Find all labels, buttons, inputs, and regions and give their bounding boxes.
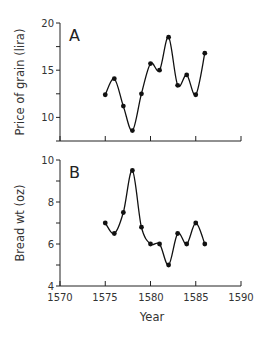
panel-b-xtick-label: 1570 bbox=[47, 292, 72, 303]
panel-b-ytick-label: 6 bbox=[48, 239, 54, 250]
panel-a-y-ticks bbox=[56, 23, 60, 117]
data-point bbox=[157, 242, 162, 247]
panel-b-xtick-label: 1590 bbox=[228, 292, 253, 303]
data-point bbox=[175, 231, 180, 236]
data-point bbox=[103, 221, 108, 226]
data-point bbox=[103, 92, 108, 97]
data-point bbox=[112, 76, 117, 81]
figure: 20 15 10 A Price of grain (lira) 10 8 6 … bbox=[0, 0, 265, 337]
panel-b-xtick-label: 1575 bbox=[92, 292, 117, 303]
panel-b-points bbox=[103, 168, 207, 267]
panel-b-ytick-label: 4 bbox=[48, 281, 54, 292]
data-point bbox=[121, 210, 126, 215]
data-point bbox=[121, 104, 126, 109]
data-point bbox=[202, 51, 207, 56]
panel-a-label: A bbox=[69, 26, 80, 45]
panel-b: 10 8 6 4 1570 1575 1580 1585 1590 Year B… bbox=[13, 155, 254, 324]
data-point bbox=[130, 168, 135, 173]
panel-b-y-ticks bbox=[56, 160, 60, 265]
panel-a-ytick-label: 20 bbox=[41, 18, 54, 29]
panel-b-ytick-label: 8 bbox=[48, 197, 54, 208]
panel-b-x-ticks bbox=[60, 281, 241, 286]
panel-b-line bbox=[105, 170, 205, 265]
data-point bbox=[166, 35, 171, 40]
panel-b-y-axis-label: Bread wt (oz) bbox=[13, 184, 27, 261]
panel-b-xtick-label: 1580 bbox=[138, 292, 163, 303]
data-point bbox=[139, 91, 144, 96]
panel-b-ytick-label: 10 bbox=[41, 155, 54, 166]
data-point bbox=[193, 221, 198, 226]
panel-a-x-ticks bbox=[60, 136, 241, 141]
data-point bbox=[157, 68, 162, 73]
panel-b-x-axis-label: Year bbox=[139, 310, 165, 324]
panel-b-label: B bbox=[69, 163, 80, 182]
panel-a-y-axis-label: Price of grain (lira) bbox=[13, 29, 27, 136]
data-point bbox=[184, 242, 189, 247]
data-point bbox=[112, 231, 117, 236]
data-point bbox=[184, 73, 189, 78]
panel-a: 20 15 10 A Price of grain (lira) bbox=[13, 18, 241, 141]
panel-a-line bbox=[105, 37, 205, 131]
data-point bbox=[148, 61, 153, 66]
panel-a-points bbox=[103, 35, 207, 133]
data-point bbox=[175, 83, 180, 88]
data-point bbox=[202, 242, 207, 247]
data-point bbox=[148, 242, 153, 247]
panel-b-xtick-label: 1585 bbox=[183, 292, 208, 303]
data-point bbox=[130, 128, 135, 133]
data-point bbox=[139, 225, 144, 230]
data-point bbox=[166, 263, 171, 268]
panel-a-ytick-label: 15 bbox=[41, 65, 54, 76]
panel-a-ytick-label: 10 bbox=[41, 112, 54, 123]
data-point bbox=[193, 92, 198, 97]
